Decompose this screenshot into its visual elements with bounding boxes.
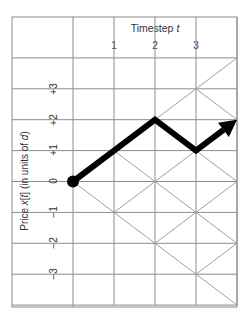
outer-frame xyxy=(12,17,237,307)
lattice-edge-up xyxy=(114,182,155,213)
y-axis-ticks: +3 +2 +1 0 −1 −2 −3 xyxy=(48,83,59,280)
lattice-edge-up xyxy=(155,89,196,120)
lattice-edge-up xyxy=(196,243,237,274)
lattice-edge-down xyxy=(196,274,237,305)
y-tick-minus2: −2 xyxy=(48,237,59,249)
x-axis-title: Timestep t xyxy=(131,22,181,34)
lattice-edge-down xyxy=(196,212,237,243)
y-axis-title: Price x[t] (in units of d) xyxy=(19,131,30,231)
lattice-edge-down xyxy=(196,89,237,120)
lattice-edge-up xyxy=(155,151,196,182)
lattice-edge-down xyxy=(114,212,155,243)
grid-lines xyxy=(12,17,237,305)
lattice-edge-down xyxy=(155,243,196,274)
lattice-edge-up xyxy=(155,212,196,243)
lattice-edge-down xyxy=(155,182,196,213)
start-dot-icon xyxy=(67,176,79,188)
y-tick-plus3: +3 xyxy=(48,83,59,95)
lattice-edge-down xyxy=(73,182,114,213)
y-tick-plus2: +2 xyxy=(48,114,59,126)
y-tick-0: 0 xyxy=(48,178,59,184)
lattice-edge-up xyxy=(196,182,237,213)
y-tick-plus1: +1 xyxy=(48,144,59,156)
lattice-edge-up xyxy=(196,58,237,89)
lattice-edge-down xyxy=(196,151,237,182)
binomial-price-lattice: Timestep t 1 2 3 Price x[t] (in units of… xyxy=(0,0,249,320)
y-tick-minus1: −1 xyxy=(48,206,59,218)
price-path xyxy=(67,120,237,188)
lattice-edge-down xyxy=(114,151,155,182)
y-tick-minus3: −3 xyxy=(48,268,59,280)
